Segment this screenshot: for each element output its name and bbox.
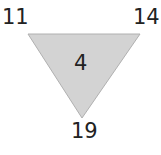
- center-number: 4: [74, 53, 87, 74]
- corner-number-top-left: 11: [2, 7, 29, 28]
- corner-number-top-right: 14: [133, 7, 160, 28]
- corner-number-bottom: 19: [71, 121, 98, 142]
- triangle-shape: [28, 34, 140, 118]
